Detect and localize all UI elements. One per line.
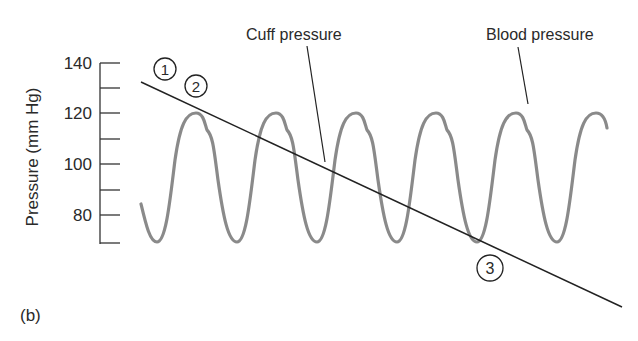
cuff-pressure-label: Cuff pressure (246, 26, 342, 43)
tick-80: 80 (73, 206, 92, 225)
svg-text:1: 1 (161, 61, 169, 78)
blood-pressure-label: Blood pressure (486, 26, 594, 43)
tick-100: 100 (64, 155, 92, 174)
svg-text:2: 2 (192, 78, 200, 95)
y-tick-labels: 140 120 100 80 (64, 54, 92, 225)
marker-3: 3 (477, 255, 503, 281)
svg-text:3: 3 (486, 260, 495, 277)
marker-1: 1 (154, 58, 176, 80)
tick-120: 120 (64, 104, 92, 123)
marker-2: 2 (185, 75, 207, 97)
y-axis (100, 63, 120, 244)
blood-leader-line (518, 47, 528, 104)
blood-pressure-wave (141, 113, 607, 242)
tick-140: 140 (64, 54, 92, 73)
cuff-pressure-line (141, 82, 622, 307)
y-axis-label: Pressure (mm Hg) (23, 88, 42, 227)
cuff-leader-line (307, 46, 325, 162)
blood-pressure-diagram: Pressure (mm Hg) 140 120 100 80 Cuff pre… (0, 0, 638, 341)
panel-label: (b) (20, 306, 41, 325)
